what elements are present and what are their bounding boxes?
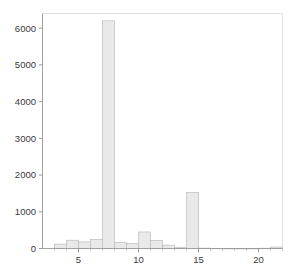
histogram-bar [55, 244, 67, 248]
chart-screenshot: 0100020003000400050006000 5101520 [0, 0, 298, 274]
histogram-bar [163, 245, 175, 248]
histogram-bar [187, 192, 199, 248]
y-tick-label: 3000 [15, 133, 36, 144]
histogram-bar [67, 240, 79, 248]
x-tick-label: 15 [193, 254, 204, 265]
x-tick-label: 10 [133, 254, 144, 265]
x-tick-label: 5 [76, 254, 81, 265]
histogram-bar [127, 243, 139, 248]
histogram-bar [151, 241, 163, 249]
histogram-bar [103, 21, 115, 249]
y-tick-label: 2000 [15, 169, 36, 180]
histogram-bar [139, 232, 151, 249]
y-tick-label: 6000 [15, 23, 36, 34]
y-tick-label: 4000 [15, 96, 36, 107]
y-tick-label: 5000 [15, 59, 36, 70]
histogram-bar [79, 242, 91, 249]
chart-svg: 0100020003000400050006000 5101520 [0, 0, 298, 274]
y-tick-label: 0 [31, 243, 36, 254]
x-tick-label: 20 [253, 254, 264, 265]
histogram-chart: 0100020003000400050006000 5101520 [0, 0, 298, 274]
histogram-bar [91, 239, 103, 248]
histogram-bar [115, 243, 127, 249]
y-tick-label: 1000 [15, 206, 36, 217]
